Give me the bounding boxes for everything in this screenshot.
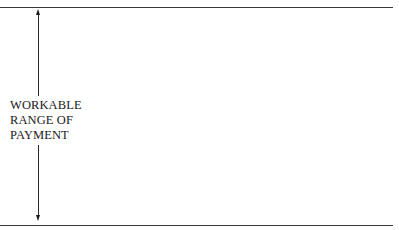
range-label-line-1: WORKABLE xyxy=(10,98,82,113)
arrow-shaft-upper xyxy=(38,14,39,96)
range-label-line-3: PAYMENT xyxy=(10,128,82,143)
upper-boundary-line xyxy=(0,7,393,8)
arrow-shaft-lower xyxy=(38,145,39,217)
arrow-down-icon xyxy=(36,215,40,221)
lower-boundary-line xyxy=(0,225,393,226)
range-label-line-2: RANGE OF xyxy=(10,113,82,128)
range-label: WORKABLE RANGE OF PAYMENT xyxy=(10,98,82,143)
